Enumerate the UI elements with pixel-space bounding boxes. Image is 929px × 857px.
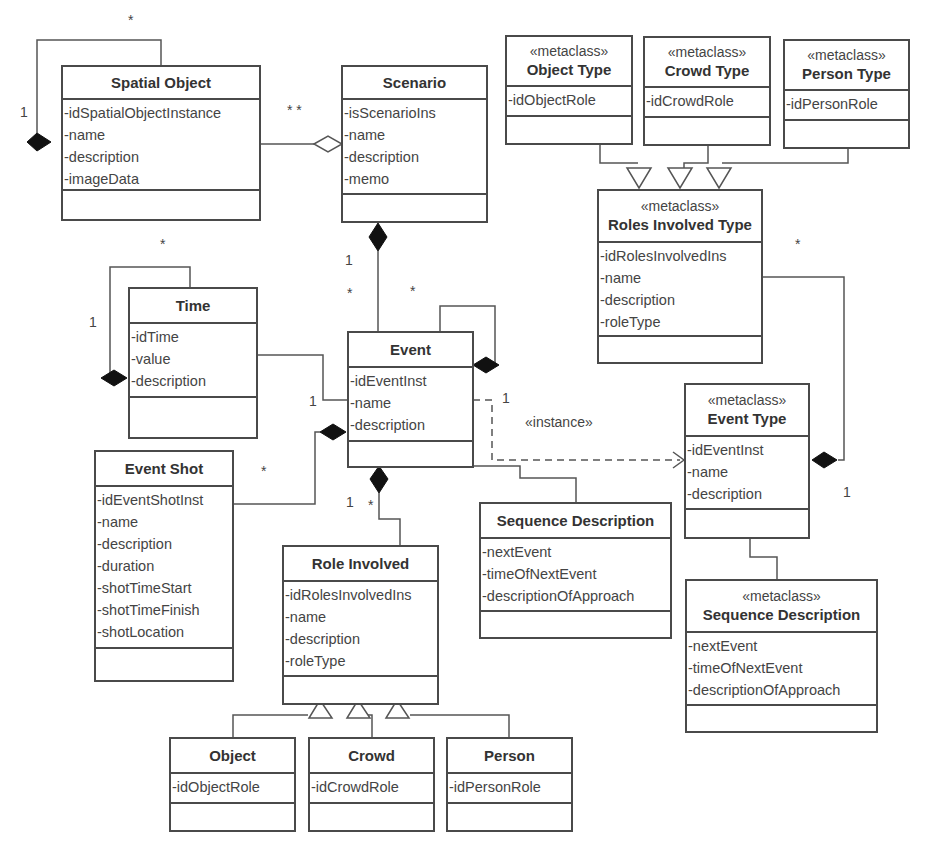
instance-stereotype-label: «instance»	[525, 414, 593, 430]
attribute-compartment: -idObjectRole	[171, 774, 294, 804]
class-header: «metaclass» Sequence Description	[687, 581, 876, 633]
attribute-compartment: -idCrowdRole	[310, 774, 433, 804]
class-sequence-description[interactable]: Sequence Description -nextEvent -timeOfN…	[479, 502, 672, 639]
attribute: -shotTimeFinish	[97, 599, 232, 621]
uml-class-diagram: .ln { stroke: #555; stroke-width: 1.5; f…	[0, 0, 929, 857]
attribute: -idCrowdRole	[646, 90, 769, 112]
attribute: -nextEvent	[688, 635, 876, 657]
attribute-compartment: -idRolesInvolvedIns -name -description -…	[284, 582, 437, 677]
stereotype: «metaclass»	[689, 588, 874, 605]
class-person[interactable]: Person -idPersonRole	[446, 737, 573, 832]
attribute-compartment: -idSpatialObjectInstance -name -descript…	[63, 100, 259, 191]
attribute: -name	[600, 267, 761, 289]
attribute: -idEventInst	[687, 439, 808, 461]
class-name: Scenario	[345, 73, 484, 92]
multiplicity-label: *	[347, 285, 352, 301]
class-scenario[interactable]: Scenario -isScenarioIns -name -descripti…	[341, 65, 488, 223]
attribute: -timeOfNextEvent	[688, 657, 876, 679]
class-name: Crowd Type	[647, 61, 767, 80]
instance-dependency	[473, 400, 684, 468]
class-name: Event Type	[688, 409, 806, 428]
class-roles-involved-type[interactable]: «metaclass» Roles Involved Type -idRoles…	[597, 189, 763, 364]
attribute: -description	[344, 146, 486, 168]
attribute: -idPersonRole	[449, 776, 571, 798]
class-name: Event	[351, 340, 470, 359]
class-name: Person	[450, 746, 569, 765]
stereotype: «metaclass»	[647, 44, 767, 61]
class-header: Event	[349, 333, 472, 368]
attribute-compartment: -idCrowdRole	[645, 88, 769, 118]
multiplicity-label: 1	[89, 314, 97, 330]
attribute-compartment: -idRolesInvolvedIns -name -description -…	[599, 243, 761, 337]
class-time[interactable]: Time -idTime -value -description	[128, 287, 258, 439]
attribute: -timeOfNextEvent	[482, 563, 670, 585]
multiplicity-label: *	[368, 497, 373, 513]
stereotype: «metaclass»	[601, 198, 759, 215]
attribute: -idTime	[131, 326, 256, 348]
class-name: Sequence Description	[483, 511, 668, 530]
event-sequence-association	[473, 466, 576, 503]
attribute: -value	[131, 348, 256, 370]
class-name: Crowd	[312, 746, 431, 765]
attribute: -description	[350, 414, 472, 436]
attribute: -name	[344, 124, 486, 146]
attribute-compartment: -idEventShotInst -name -description -dur…	[96, 487, 232, 649]
attribute: -name	[350, 392, 472, 414]
class-name: Person Type	[787, 64, 906, 83]
class-crowd-type[interactable]: «metaclass» Crowd Type -idCrowdRole	[643, 36, 771, 146]
eventtype-sequence-meta-association	[750, 537, 777, 580]
class-event[interactable]: Event -idEventInst -name -description	[347, 331, 474, 468]
attribute: -idObjectRole	[508, 89, 631, 111]
attribute: -name	[687, 461, 808, 483]
class-header: «metaclass» Crowd Type	[645, 38, 769, 88]
attribute: -memo	[344, 168, 486, 190]
attribute: -description	[600, 289, 761, 311]
attribute: -idEventShotInst	[97, 489, 232, 511]
attribute: -descriptionOfApproach	[688, 679, 876, 701]
class-sequence-description-metaclass[interactable]: «metaclass» Sequence Description -nextEv…	[685, 579, 878, 733]
multiplicity-label: * *	[287, 102, 302, 118]
class-header: Sequence Description	[481, 504, 670, 539]
class-name: Roles Involved Type	[601, 215, 759, 234]
class-header: «metaclass» Roles Involved Type	[599, 191, 761, 243]
class-name: Time	[132, 296, 254, 315]
multiplicity-label: 1	[345, 252, 353, 268]
attribute: -description	[97, 533, 232, 555]
attribute-compartment: -idObjectRole	[507, 87, 631, 117]
class-header: Person	[448, 739, 571, 774]
type-generalizations	[600, 145, 848, 188]
class-spatial-object[interactable]: Spatial Object -idSpatialObjectInstance …	[61, 65, 261, 221]
attribute-compartment: -idTime -value -description	[130, 324, 256, 398]
class-crowd[interactable]: Crowd -idCrowdRole	[308, 737, 435, 832]
class-header: Crowd	[310, 739, 433, 774]
class-header: Time	[130, 289, 256, 324]
spatial-scenario-aggregation	[260, 136, 342, 152]
role-generalizations	[233, 700, 509, 738]
stereotype: «metaclass»	[787, 47, 906, 64]
attribute: -nextEvent	[482, 541, 670, 563]
multiplicity-label: *	[795, 236, 800, 252]
class-header: Spatial Object	[63, 67, 259, 100]
class-object-type[interactable]: «metaclass» Object Type -idObjectRole	[505, 35, 633, 145]
class-name: Event Shot	[98, 459, 230, 478]
attribute: -idPersonRole	[786, 93, 908, 115]
attribute: -duration	[97, 555, 232, 577]
attribute: -roleType	[285, 650, 437, 672]
attribute: -name	[64, 124, 259, 146]
attribute-compartment: -isScenarioIns -name -description -memo	[343, 100, 486, 195]
attribute: -isScenarioIns	[344, 102, 486, 124]
class-event-type[interactable]: «metaclass» Event Type -idEventInst -nam…	[684, 383, 810, 539]
class-object[interactable]: Object -idObjectRole	[169, 737, 296, 832]
class-header: «metaclass» Object Type	[507, 37, 631, 87]
class-event-shot[interactable]: Event Shot -idEventShotInst -name -descr…	[94, 450, 234, 682]
attribute: -description	[131, 370, 256, 392]
event-role-composition	[370, 466, 400, 545]
attribute: -name	[285, 606, 437, 628]
attribute-compartment: -idEventInst -name -description	[349, 368, 472, 442]
multiplicity-label: *	[410, 283, 415, 299]
class-role-involved[interactable]: Role Involved -idRolesInvolvedIns -name …	[282, 545, 439, 705]
attribute: -description	[687, 483, 808, 505]
multiplicity-label: *	[128, 12, 133, 28]
attribute: -idSpatialObjectInstance	[64, 102, 259, 124]
class-person-type[interactable]: «metaclass» Person Type -idPersonRole	[783, 39, 910, 149]
